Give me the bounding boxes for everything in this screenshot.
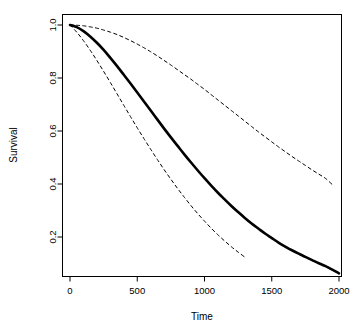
y-tick-label: 0.8 xyxy=(47,71,58,84)
y-axis-title: Survival xyxy=(8,127,19,163)
x-tick-label: 0 xyxy=(67,285,72,296)
y-tick-label: 0.4 xyxy=(47,177,58,190)
plot-background xyxy=(0,0,361,336)
y-tick-label: 0.6 xyxy=(47,124,58,137)
y-tick-label: 0.2 xyxy=(47,230,58,243)
survival-plot: 0500100015002000 0.20.40.60.81.0 Time Su… xyxy=(0,0,361,336)
x-axis-title: Time xyxy=(191,311,213,322)
x-tick-label: 1500 xyxy=(261,285,282,296)
plot-canvas: 0500100015002000 0.20.40.60.81.0 Time Su… xyxy=(0,0,361,336)
x-tick-label: 500 xyxy=(129,285,145,296)
x-tick-label: 2000 xyxy=(328,285,349,296)
y-tick-label: 1.0 xyxy=(47,18,58,31)
x-tick-label: 1000 xyxy=(194,285,215,296)
